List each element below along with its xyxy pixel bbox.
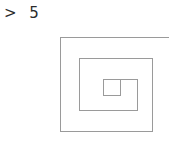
square-spiral-path bbox=[61, 37, 170, 131]
square-spiral-drawing bbox=[0, 0, 169, 145]
turtle-graphics-canvas: > 5 bbox=[0, 0, 169, 145]
